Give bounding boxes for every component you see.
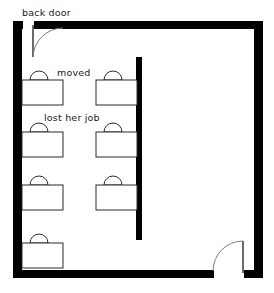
chair-icon — [30, 176, 48, 185]
desk-icon — [96, 80, 137, 105]
label-moved: moved — [57, 67, 91, 78]
chair-icon — [104, 123, 122, 132]
chair-icon — [104, 71, 122, 80]
desk-icon — [22, 185, 63, 210]
floor-plan-diagram: back door moved lost her job — [0, 0, 274, 293]
chair-icon — [30, 234, 48, 243]
desk-icon — [96, 185, 137, 210]
workstation-3[interactable] — [22, 123, 63, 157]
desk-icon — [22, 132, 63, 157]
chair-icon — [30, 71, 48, 80]
wall-gap-front-door — [214, 270, 244, 278]
back-door[interactable] — [33, 25, 63, 57]
label-back-door: back door — [22, 7, 71, 18]
back-door-swing-arc — [33, 28, 63, 57]
label-lost-her-job: lost her job — [44, 112, 100, 123]
workstation-2[interactable] — [96, 71, 137, 105]
wall-top — [13, 21, 263, 29]
front-door[interactable] — [213, 241, 243, 273]
wall-left — [13, 21, 22, 278]
workstation-7[interactable] — [22, 234, 63, 268]
desk-icon — [22, 243, 63, 268]
front-door-swing-arc — [213, 241, 243, 271]
workstation-5[interactable] — [22, 176, 63, 210]
wall-right — [254, 21, 263, 278]
desk-icon — [22, 80, 63, 105]
chair-icon — [30, 123, 48, 132]
floor-plan-canvas: back door moved lost her job — [0, 0, 274, 293]
workstation-4[interactable] — [96, 123, 137, 157]
desk-icon — [96, 132, 137, 157]
chair-icon — [104, 176, 122, 185]
workstations — [22, 71, 137, 268]
workstation-6[interactable] — [96, 176, 137, 210]
